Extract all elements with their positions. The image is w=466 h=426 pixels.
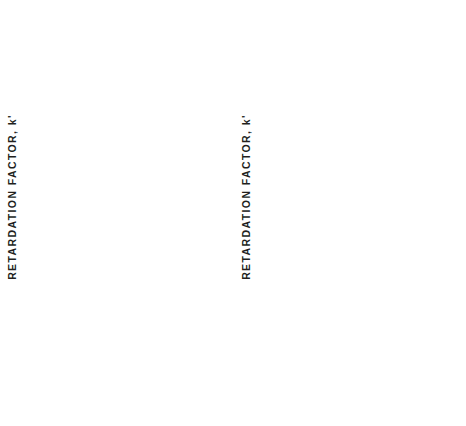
figure-container: RETARDATION FACTOR, k'RETARDATION FACTOR… bbox=[0, 0, 466, 426]
y-axis-title-panel-b: RETARDATION FACTOR, k' bbox=[240, 114, 252, 280]
retardation-factor-figure: RETARDATION FACTOR, k'RETARDATION FACTOR… bbox=[0, 0, 466, 426]
y-axis-title-text: RETARDATION FACTOR, k' bbox=[6, 114, 18, 280]
y-axis-title: RETARDATION FACTOR, k' bbox=[6, 114, 18, 280]
y-axis-title-text-b: RETARDATION FACTOR, k' bbox=[240, 114, 252, 280]
